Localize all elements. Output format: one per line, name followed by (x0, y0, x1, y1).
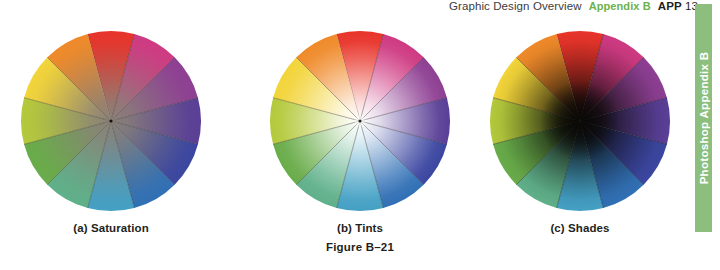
figure-b-21: (a) Saturation (b) Tints (c) Shades Figu… (0, 0, 700, 270)
color-wheel-saturation-graphic (18, 28, 204, 214)
color-wheel-shades-graphic (487, 28, 673, 214)
wheel-center-dot (578, 119, 581, 122)
color-wheel-shades-caption: (c) Shades (480, 222, 680, 234)
color-wheel-tints-caption: (b) Tints (260, 222, 460, 234)
figure-number-label: Figure B–21 (260, 241, 460, 253)
color-wheel-shades: (c) Shades (480, 28, 680, 234)
wheel-center-dot (109, 119, 112, 122)
color-wheel-saturation: (a) Saturation (11, 28, 211, 234)
color-wheel-tints-graphic (267, 28, 453, 214)
color-wheel-svg-shades (487, 28, 673, 214)
color-wheel-svg-tints (267, 28, 453, 214)
color-wheel-saturation-caption: (a) Saturation (11, 222, 211, 234)
wheel-center-dot (358, 119, 361, 122)
color-wheel-svg-saturation (18, 28, 204, 214)
color-wheel-tints: (b) Tints (260, 28, 460, 234)
